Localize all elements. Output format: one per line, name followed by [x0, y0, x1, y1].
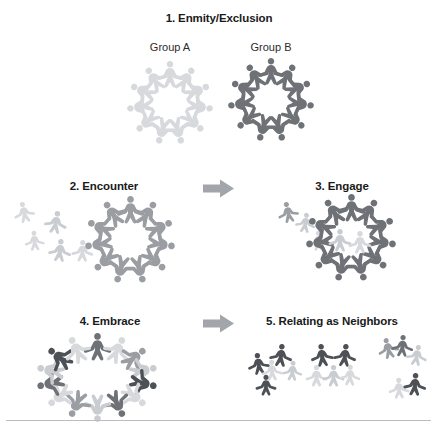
arrow-4-to-5 [203, 314, 234, 333]
person-figure [23, 229, 45, 251]
person-figure [402, 371, 428, 397]
bottom-divider [6, 420, 431, 421]
person-figure [348, 230, 372, 254]
arrow-2-to-3 [203, 179, 234, 198]
stage-1-title: 1. Enmity/Exclusion [166, 12, 273, 24]
group-b-label: Group B [251, 41, 292, 53]
group-a-label: Group A [150, 41, 190, 53]
person-figure [11, 199, 37, 225]
stage-2-title: 2. Encounter [70, 180, 138, 192]
person-figure [255, 374, 277, 396]
person-figure [281, 359, 303, 381]
person-figure [404, 342, 429, 367]
stage-4-title: 4. Embrace [80, 315, 140, 327]
diagram-canvas: 1. Enmity/Exclusion Group A Group B 2. E… [0, 0, 437, 434]
stage-3-title: 3. Engage [315, 180, 368, 192]
person-figure [42, 208, 70, 236]
person-figure [339, 364, 362, 387]
stage-5-title: 5. Relating as Neighbors [266, 315, 398, 327]
person-figure [47, 237, 73, 263]
